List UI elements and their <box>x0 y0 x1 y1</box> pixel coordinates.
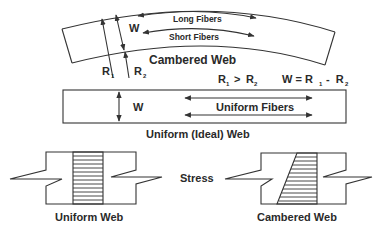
uniform-web-shape <box>63 90 346 123</box>
uniform-width-label: W <box>133 101 144 113</box>
uniform-stress-specimen <box>10 152 162 204</box>
svg-text:R: R <box>246 73 254 85</box>
cambered-web-caption: Cambered Web <box>257 211 337 223</box>
r2-arrow <box>125 52 129 78</box>
svg-text:2: 2 <box>345 81 349 87</box>
r1-subscript: 1 <box>111 73 115 79</box>
uniform-web-title: Uniform (Ideal) Web <box>146 128 250 140</box>
radius-inequality: R 1 > R 2 <box>218 73 258 87</box>
width-equation: W = R 1 - R 2 <box>282 73 349 87</box>
r2-label: R <box>134 65 142 77</box>
cambered-web-title: Cambered Web <box>149 53 236 67</box>
svg-text:W = R: W = R <box>282 73 313 85</box>
svg-text:>: > <box>231 73 244 85</box>
web-camber-diagram: Long Fibers Short Fibers W Cambered Web … <box>0 0 381 228</box>
long-fibers-label: Long Fibers <box>173 14 222 24</box>
svg-text:- R: - R <box>323 73 344 85</box>
svg-text:1: 1 <box>226 81 230 87</box>
uniform-web-caption: Uniform Web <box>55 211 124 223</box>
r2-subscript: 2 <box>143 73 147 79</box>
cambered-width-arrow <box>116 15 124 50</box>
cambered-stress-specimen <box>225 153 372 204</box>
short-fibers-label: Short Fibers <box>169 32 219 42</box>
stress-label: Stress <box>180 172 214 184</box>
r1-label: R <box>102 65 110 77</box>
uniform-fibers-label: Uniform Fibers <box>216 101 294 113</box>
svg-text:2: 2 <box>254 81 258 87</box>
cambered-width-label: W <box>129 22 140 34</box>
svg-text:R: R <box>218 73 226 85</box>
